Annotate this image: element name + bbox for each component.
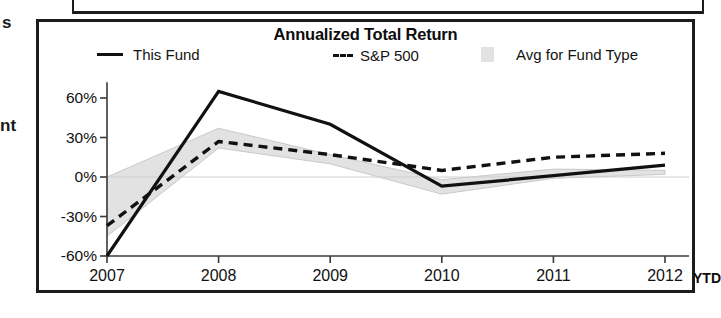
annualized-total-return-chart: Annualized Total Return This Fund S&P 50… — [36, 19, 695, 293]
x-axis-tick-label: 2010 — [410, 267, 474, 285]
x-axis-ytd-label: YTD — [693, 270, 721, 286]
y-axis-tick-label: 30% — [41, 129, 97, 147]
y-axis-tick-label: 60% — [41, 89, 97, 107]
x-axis-tick-label: 2009 — [298, 267, 362, 285]
y-axis-tick-label: -60% — [41, 247, 97, 265]
x-axis-tick-label: 2011 — [521, 267, 585, 285]
plot-area — [39, 22, 698, 296]
page-rule-divider — [72, 0, 704, 14]
y-axis-tick-label: 0% — [41, 168, 97, 186]
x-axis-tick-label: 2012 — [633, 267, 697, 285]
x-axis-tick-label: 2007 — [75, 267, 139, 285]
plot-canvas — [39, 22, 698, 296]
x-axis-tick-label: 2008 — [187, 267, 251, 285]
y-axis-tick-label: -30% — [41, 208, 97, 226]
scan-fragment-middle: nt — [0, 116, 16, 136]
band-avg-for-fund-type — [107, 128, 665, 236]
scan-fragment-top: s — [2, 13, 11, 33]
